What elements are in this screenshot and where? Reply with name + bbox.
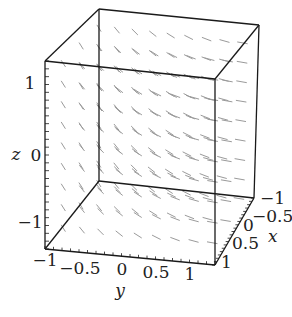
vector-arrow	[132, 107, 138, 113]
vector-arrow	[61, 122, 65, 128]
vector-arrow	[200, 154, 209, 157]
vector-arrow	[218, 137, 227, 140]
vector-arrow	[234, 198, 244, 200]
vector-arrow	[183, 172, 191, 176]
box-edge	[254, 25, 259, 198]
vector-arrow	[80, 227, 85, 233]
vector-arrow	[185, 35, 193, 39]
box-edge	[99, 9, 259, 25]
vector-arrow	[79, 123, 83, 129]
vector-arrow	[200, 193, 209, 196]
vector-arrow	[203, 218, 212, 221]
vector-arrow	[185, 215, 194, 218]
vector-arrow	[116, 231, 122, 236]
vector-arrow	[134, 233, 141, 238]
vector-arrow	[208, 201, 218, 203]
vector-arrow	[149, 90, 155, 95]
x-tick-label: −0.5	[252, 206, 292, 226]
box-edge	[45, 61, 215, 79]
vector-arrow	[203, 178, 212, 181]
vector-arrow	[201, 96, 210, 99]
y-axis-label: y	[114, 280, 125, 300]
vector-arrow	[166, 169, 173, 174]
vector-arrow	[115, 47, 120, 53]
vector-arrow	[220, 59, 229, 62]
vector-arrow	[98, 229, 104, 235]
vector-arrow	[61, 81, 65, 87]
vector-arrow	[153, 174, 161, 178]
vector-arrow	[222, 160, 232, 162]
vector-arrow	[237, 61, 247, 63]
vector-arrow	[150, 31, 156, 36]
vector-arrow	[217, 176, 226, 179]
vector-arrow	[222, 140, 232, 142]
box-edge	[215, 25, 259, 79]
vector-arrow	[235, 159, 245, 161]
vector-arrow	[218, 157, 227, 160]
vector-arrow	[235, 178, 245, 180]
vector-arrow	[221, 220, 231, 222]
vector-arrow	[114, 85, 119, 91]
vector-arrow	[132, 49, 138, 55]
vector-arrow	[79, 143, 83, 149]
vector-arrow	[238, 42, 248, 44]
vector-arrow	[133, 129, 139, 134]
vector-arrow	[217, 195, 226, 198]
vector-arrow	[61, 164, 65, 170]
vector-arrow	[116, 190, 122, 195]
y-tick-label: 0.5	[142, 262, 169, 282]
y-tick-label: −1	[32, 250, 57, 270]
vector-arrow	[79, 103, 83, 109]
z-tick-label: 1	[25, 73, 36, 93]
x-tick-label: −1	[260, 188, 285, 208]
vector-arrow	[115, 27, 120, 33]
z-tick-label: 0	[31, 145, 42, 165]
vector-arrow	[221, 180, 231, 182]
vector-arrow	[61, 102, 65, 108]
axis-ticks	[45, 61, 254, 265]
vector-arrow	[149, 51, 155, 56]
vector-arrow	[200, 174, 209, 177]
vector-arrow	[166, 92, 173, 97]
z-tick-label: −1	[17, 212, 42, 232]
vector-arrow	[189, 240, 198, 243]
vector-arrow	[61, 143, 65, 149]
vector-arrow	[202, 38, 211, 41]
vector-arrow	[167, 33, 174, 38]
vector-arrow	[184, 94, 192, 98]
vector-arrow	[189, 199, 198, 202]
vector-arrow	[186, 116, 195, 119]
vector-arrow	[149, 109, 155, 114]
vector-field-plot: 1 0 −1 z −1 −0.5 0 0.5 1 y −1 −0.5 0 0.5…	[0, 0, 292, 317]
vector-arrow	[203, 198, 212, 201]
z-axis-label: z	[11, 144, 22, 164]
vector-arrow	[185, 195, 194, 198]
vector-arrow	[219, 79, 228, 82]
box-edge	[45, 181, 99, 249]
vector-arrow	[220, 40, 229, 43]
box-edge	[45, 9, 99, 61]
x-tick-label: 1	[221, 252, 232, 272]
vector-arrow	[189, 219, 198, 222]
vector-field-arrows	[61, 25, 247, 243]
bounding-box	[45, 9, 259, 265]
vector-arrow	[150, 131, 157, 136]
vector-arrow	[236, 120, 246, 122]
vector-arrow	[208, 181, 218, 183]
vector-arrow	[208, 221, 218, 223]
vector-arrow	[236, 100, 246, 102]
vector-arrow	[166, 111, 173, 116]
vector-arrow	[237, 81, 247, 83]
vector-arrow	[152, 235, 160, 239]
vector-arrow	[61, 205, 65, 211]
vector-arrow	[235, 139, 245, 141]
vector-arrow	[114, 105, 119, 111]
vector-arrow	[132, 29, 138, 35]
vector-arrow	[167, 213, 175, 217]
y-tick-label: −0.5	[59, 258, 100, 278]
y-tick-label: 0	[117, 259, 128, 279]
vector-arrow	[132, 87, 138, 93]
x-tick-label: 0.5	[232, 233, 259, 253]
vector-arrow	[221, 200, 231, 202]
x-tick-label: 0	[243, 215, 254, 235]
